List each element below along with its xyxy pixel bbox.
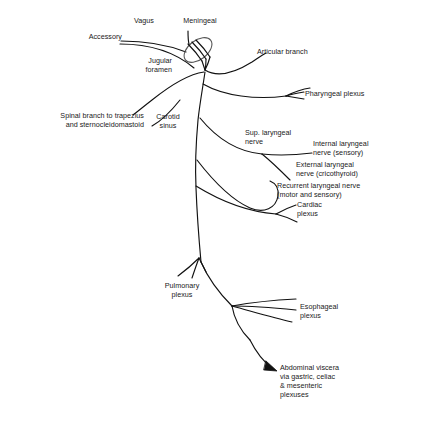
pharyngeal-leader-lower — [286, 96, 304, 99]
accessory-leader-line — [121, 41, 186, 52]
label-accessory: Accessory — [30, 33, 122, 42]
label-esophageal-plexus-line2: plexus — [300, 312, 390, 321]
pharyngeal-branch-line — [203, 84, 286, 98]
label-recurrent-laryngeal-line2: (motor and sensory) — [277, 191, 427, 200]
trunk-to-abdomen — [232, 306, 250, 340]
vagus-main-trunk — [196, 72, 205, 262]
external-laryngeal-nerve-line — [262, 154, 290, 180]
abdominal-arrowhead — [264, 361, 277, 371]
label-spinal-branch-line2: and sternocleidomastoid — [8, 121, 144, 130]
label-jugular-foramen-line2: foramen — [110, 66, 172, 75]
meningeal-leader-line — [188, 31, 189, 44]
trunk-segment-a — [202, 61, 205, 70]
label-carotid-sinus-line2: sinus — [144, 122, 192, 131]
internal-laryngeal-nerve-line — [262, 153, 312, 155]
cardiac-leader-upper — [276, 205, 296, 214]
label-cardiac-plexus-line2: plexus — [297, 210, 367, 219]
label-articular-branch: Articular branch — [257, 48, 377, 57]
jugular-foramen-ellipse — [180, 33, 217, 68]
spinal-branch-line — [133, 72, 204, 115]
vagus-nerve-diagram: Accessory Vagus Meningeal Jugular forame… — [0, 0, 446, 430]
label-internal-laryngeal-line2: nerve (sensory) — [313, 149, 423, 158]
esophageal-leader-upper — [232, 299, 296, 306]
label-external-laryngeal-line2: nerve (cricothyroid) — [296, 170, 416, 179]
label-pharyngeal-plexus: Pharyngeal plexus — [305, 90, 425, 99]
label-meningeal: Meningeal — [161, 17, 239, 26]
esophageal-leader-middle — [232, 306, 296, 310]
cardiac-leader-lower — [276, 214, 297, 222]
label-abdominal-line4: plexuses — [280, 391, 400, 400]
recurrent-laryngeal-loop — [197, 160, 278, 210]
label-pulmonary-plexus-line2: plexus — [148, 291, 216, 300]
foramen-fiber-1 — [188, 44, 202, 61]
